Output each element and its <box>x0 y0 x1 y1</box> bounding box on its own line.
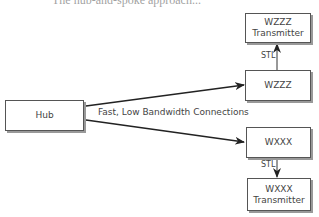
hub-wxxx-arrow <box>86 120 244 142</box>
hub-node: Hub <box>5 100 84 131</box>
stl-label-top: STL <box>261 51 275 60</box>
wzzz-transmitter-line2: Transmitter <box>252 28 303 39</box>
hub-label: Hub <box>35 110 53 121</box>
wxxx-transmitter-node: WXXX Transmitter <box>247 178 311 211</box>
caption-partial: The hub-and-spoke approach... <box>52 0 201 8</box>
wxxx-transmitter-line2: Transmitter <box>253 195 304 206</box>
connection-label: Fast, Low Bandwidth Connections <box>98 107 249 117</box>
wxxx-transmitter-line1: WXXX <box>265 184 292 195</box>
stl-label-bottom: STL <box>261 160 275 169</box>
wzzz-node: WZZZ <box>245 70 311 101</box>
wxxx-label: WXXX <box>265 137 292 148</box>
wzzz-label: WZZZ <box>264 80 291 91</box>
wxxx-node: WXXX <box>246 127 311 158</box>
wzzz-transmitter-node: WZZZ Transmitter <box>245 13 311 43</box>
hub-wzzz-arrow <box>86 85 244 106</box>
wzzz-transmitter-line1: WZZZ <box>264 17 291 28</box>
